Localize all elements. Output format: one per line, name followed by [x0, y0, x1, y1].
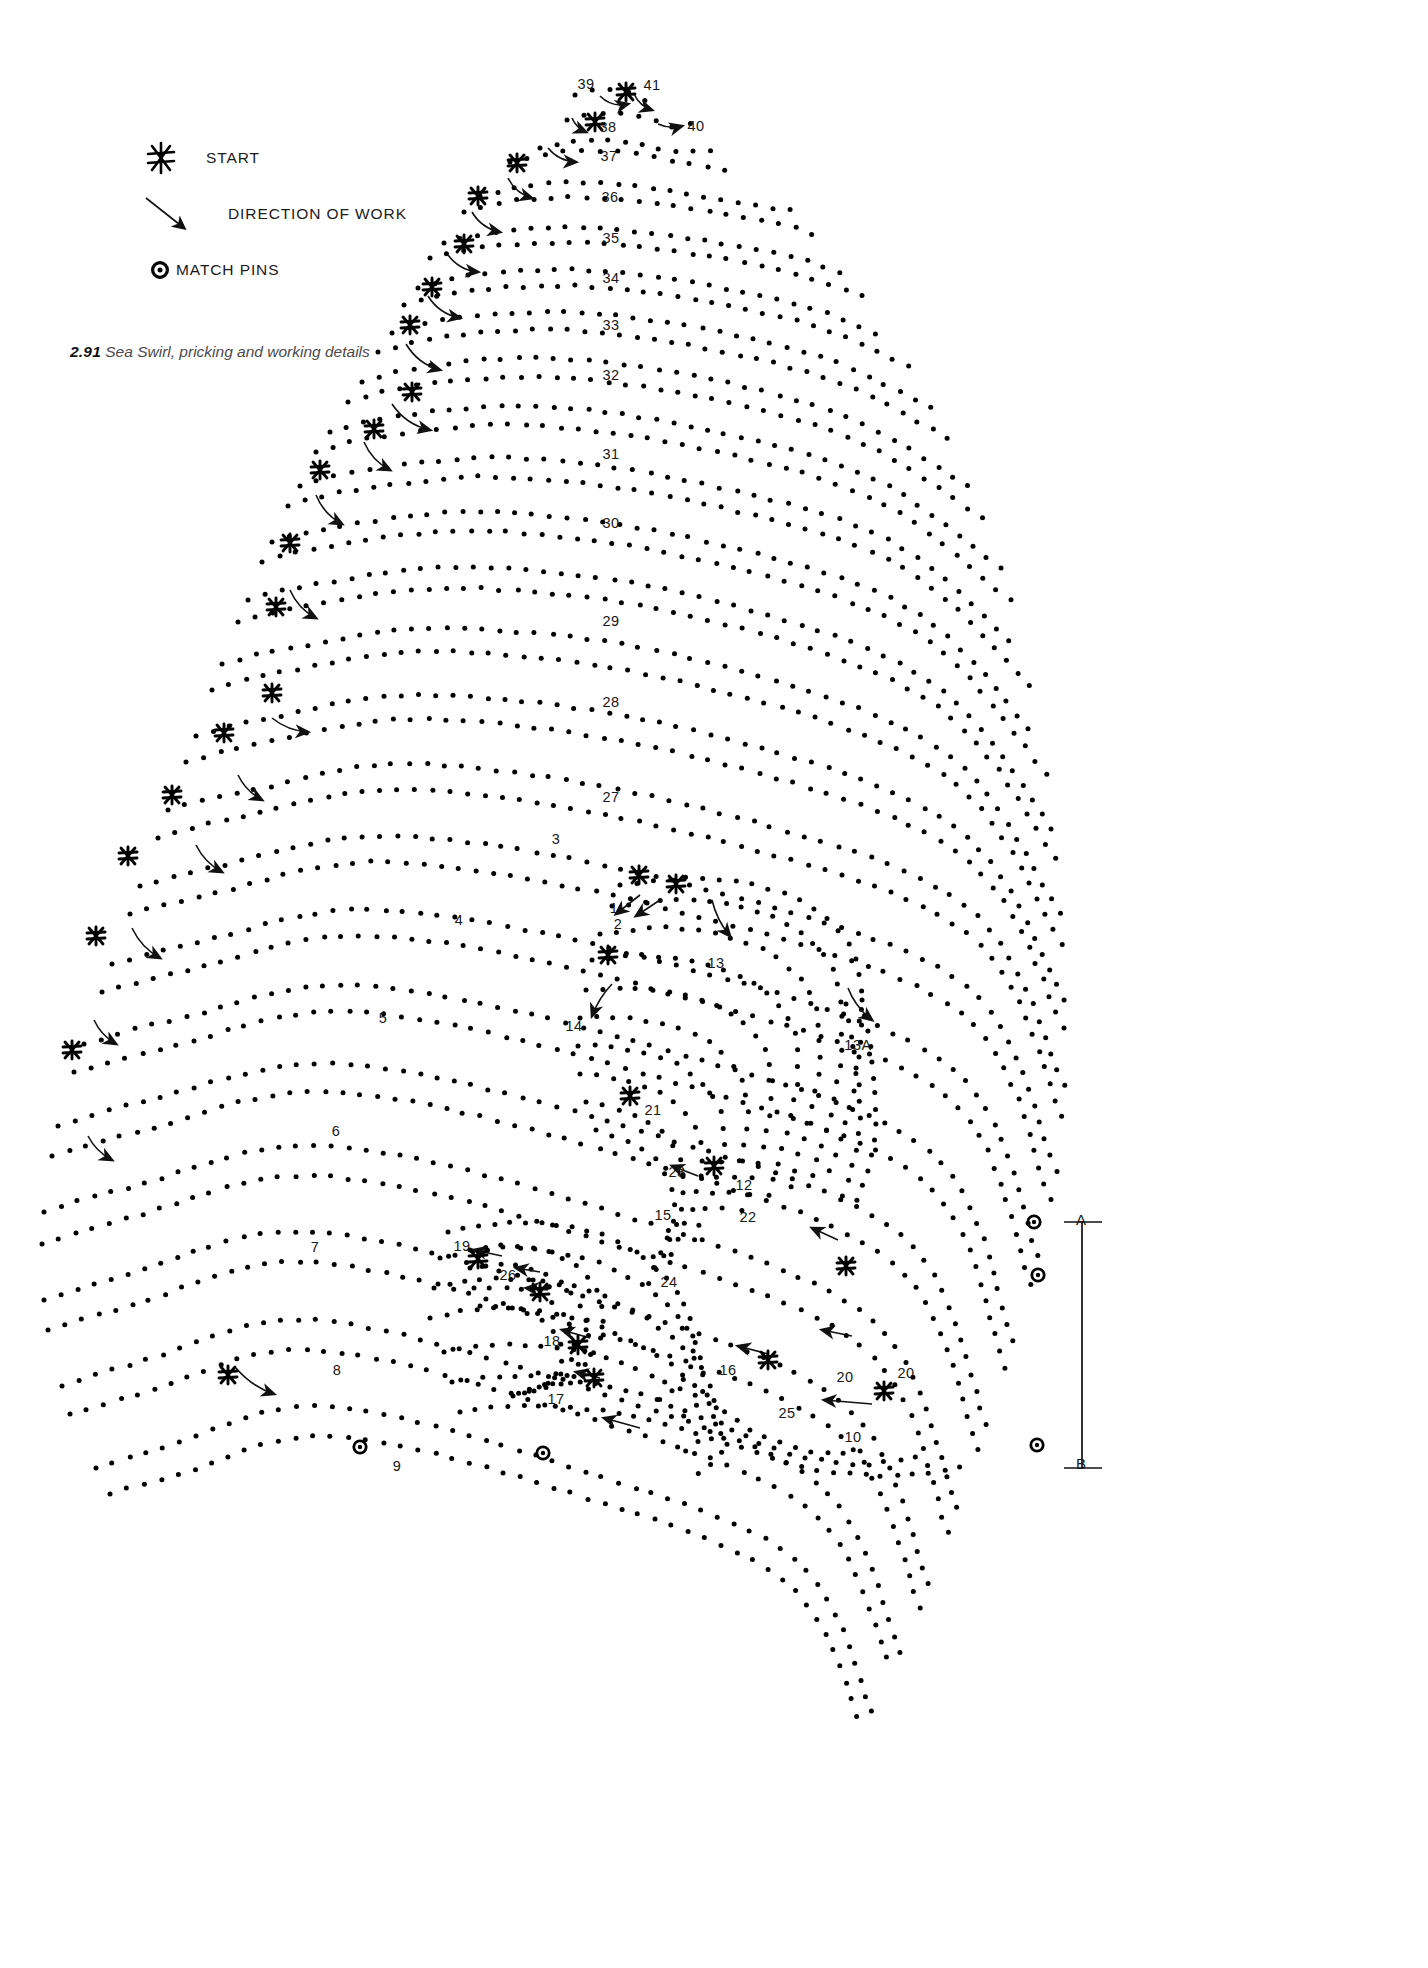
pin-dot	[450, 1428, 455, 1433]
pin-dot	[719, 242, 724, 247]
pin-dot	[357, 633, 362, 638]
pin-dot	[705, 428, 710, 433]
pin-dot	[708, 1429, 713, 1434]
pin-dot	[273, 806, 278, 811]
pin-dot	[795, 1151, 800, 1156]
pin-dot	[734, 879, 739, 884]
pin-dot	[809, 1104, 814, 1109]
direction-of-work-arrow	[428, 296, 460, 318]
pin-dot	[497, 201, 502, 206]
pin-dot	[116, 984, 121, 989]
pin-dot	[957, 1465, 962, 1470]
pin-dot	[941, 772, 946, 777]
pin-dot	[298, 484, 303, 489]
pin-dot	[794, 225, 799, 230]
pin-dot	[476, 766, 481, 771]
pin-dot	[304, 603, 309, 608]
pin-dot	[992, 645, 997, 650]
pin-dot	[930, 1188, 935, 1193]
pin-dot	[656, 146, 661, 151]
section-number-label: 24	[660, 1274, 677, 1290]
pin-dot	[739, 1445, 744, 1450]
pin-dot	[705, 660, 710, 665]
pin-dot	[846, 728, 851, 733]
direction-of-work-arrow	[448, 255, 478, 272]
pin-dot	[109, 1461, 114, 1466]
pin-dot	[620, 270, 625, 275]
pin-dot	[913, 629, 918, 634]
pin-dot	[890, 1260, 895, 1265]
pin-dot	[967, 794, 972, 799]
pin-dot	[412, 412, 417, 417]
pin-dot	[636, 1404, 641, 1409]
pin-dot	[594, 1288, 599, 1293]
pin-dot	[1042, 1136, 1047, 1141]
pin-dot	[422, 862, 427, 867]
pin-dot	[651, 878, 656, 883]
pin-dot	[645, 435, 650, 440]
pin-dot	[314, 478, 319, 483]
pin-dot	[382, 652, 387, 657]
pin-dot	[649, 1221, 654, 1226]
pin-dot	[945, 634, 950, 639]
pin-dot	[700, 1237, 705, 1242]
pin-dot	[568, 1326, 573, 1331]
pin-dot	[1034, 826, 1039, 831]
pin-dot	[583, 517, 588, 522]
pin-dot	[573, 937, 578, 942]
pin-dot	[902, 605, 907, 610]
pin-dot	[190, 826, 195, 831]
pin-dot	[743, 941, 748, 946]
start-marker	[531, 1283, 549, 1301]
pin-dot	[637, 244, 642, 249]
pin-dot	[432, 1192, 437, 1197]
pin-dot	[602, 638, 607, 643]
pin-dot	[461, 586, 466, 591]
pin-dot	[322, 727, 327, 732]
pin-dot	[546, 1133, 551, 1138]
pin-dot	[584, 1233, 589, 1238]
pin-dot	[997, 1348, 1002, 1353]
pin-dot	[684, 1326, 689, 1331]
pin-dot	[468, 694, 473, 699]
pin-dot	[711, 1414, 716, 1419]
direction-of-work-arrow	[600, 96, 628, 105]
pin-dot	[362, 1237, 367, 1242]
pin-dot	[912, 520, 917, 525]
pin-dot	[854, 1714, 859, 1719]
pin-dot	[1002, 1366, 1007, 1371]
pin-dot	[767, 340, 772, 345]
pin-dot	[965, 1414, 970, 1419]
pin-dot	[500, 1244, 505, 1249]
pin-dot	[784, 1460, 789, 1465]
pin-dot	[326, 795, 331, 800]
pin-dot	[747, 1529, 752, 1534]
pin-dot	[968, 675, 973, 680]
pin-dot	[516, 403, 521, 408]
pin-dot	[635, 526, 640, 531]
pin-dot	[209, 1461, 214, 1466]
pin-dot	[434, 913, 439, 918]
pin-dot	[935, 964, 940, 969]
pin-dot	[941, 651, 946, 656]
pin-dot	[731, 565, 736, 570]
pin-dot	[479, 585, 484, 590]
pin-dot	[692, 373, 697, 378]
pin-dot	[470, 288, 475, 293]
pin-dot	[838, 1063, 843, 1068]
pin-dot	[997, 767, 1002, 772]
pin-dot	[937, 1057, 942, 1062]
pin-dot	[516, 588, 521, 593]
pin-dot	[605, 1060, 610, 1065]
pin-dot	[899, 1065, 904, 1070]
pin-dot	[546, 1374, 551, 1379]
pin-dot	[691, 1349, 696, 1354]
pin-dot	[815, 628, 820, 633]
pin-dot	[1042, 912, 1047, 917]
pin-dot	[761, 1145, 766, 1150]
pin-dot	[665, 475, 670, 480]
pin-dot	[735, 489, 740, 494]
pin-dot	[906, 797, 911, 802]
pin-dot	[719, 1109, 724, 1114]
pin-dot	[558, 1372, 563, 1377]
